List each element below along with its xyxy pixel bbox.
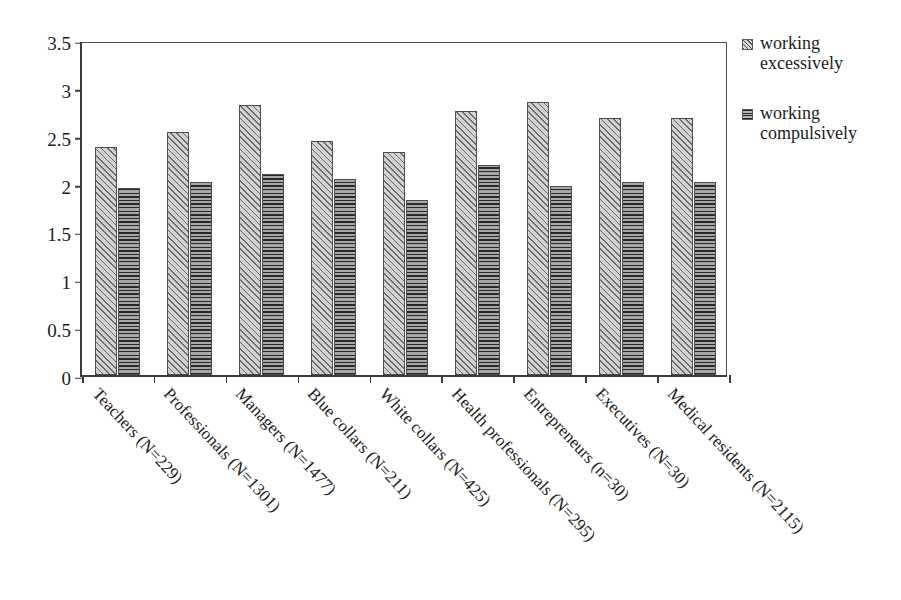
bar-excessive bbox=[599, 118, 621, 375]
legend-item-working-excessively: workingexcessively bbox=[742, 33, 892, 73]
x-axis-tick bbox=[729, 375, 731, 383]
x-axis-label: Health professionals (N=295) bbox=[448, 385, 599, 545]
y-axis-tick-label: 3.5 bbox=[47, 34, 82, 53]
x-axis-label: Medical residents (N=2115) bbox=[664, 385, 807, 537]
bar-compulsive bbox=[622, 182, 644, 375]
bar-group bbox=[82, 43, 154, 375]
plot-area: 00.511.522.533.5 bbox=[80, 42, 727, 377]
x-axis-tick bbox=[441, 375, 443, 383]
bar-compulsive bbox=[406, 200, 428, 375]
bar-excessive bbox=[95, 147, 117, 375]
bar-excessive bbox=[167, 132, 189, 375]
bar-excessive bbox=[527, 102, 549, 375]
legend-label-excessive: workingexcessively bbox=[760, 33, 843, 73]
bar-group bbox=[298, 43, 370, 375]
legend-swatch-icon-compulsive bbox=[742, 109, 753, 120]
bar-group bbox=[657, 43, 729, 375]
x-axis-tick bbox=[154, 375, 156, 383]
legend-label-compulsive-line2: compulsively bbox=[760, 123, 857, 143]
x-axis-tick bbox=[82, 375, 84, 383]
y-axis-tick-label: 2 bbox=[62, 177, 83, 196]
bar-chart: 00.511.522.533.5 Teachers (N=229)Profess… bbox=[0, 0, 901, 600]
x-axis-tick bbox=[298, 375, 300, 383]
x-axis-tick bbox=[370, 375, 372, 383]
y-axis-tick-label: 1 bbox=[62, 273, 83, 292]
bar-excessive bbox=[311, 141, 333, 375]
y-axis-tick-label: 0.5 bbox=[47, 321, 82, 340]
x-axis-tick bbox=[226, 375, 228, 383]
legend-label-excessive-line1: working bbox=[760, 33, 820, 53]
bar-excessive bbox=[671, 118, 693, 375]
y-axis-tick-label: 3 bbox=[62, 81, 83, 100]
bar-group bbox=[585, 43, 657, 375]
legend-swatch-icon-excessive bbox=[742, 39, 753, 50]
bar-compulsive bbox=[262, 174, 284, 375]
y-axis-tick-label: 0 bbox=[62, 369, 83, 388]
x-axis-tick bbox=[657, 375, 659, 383]
bar-compulsive bbox=[118, 188, 140, 375]
bar-excessive bbox=[383, 152, 405, 375]
x-axis-tick bbox=[513, 375, 515, 383]
bar-group bbox=[154, 43, 226, 375]
bar-excessive bbox=[455, 111, 477, 375]
bar-group bbox=[441, 43, 513, 375]
y-axis-tick-label: 2.5 bbox=[47, 129, 82, 148]
bar-compulsive bbox=[550, 186, 572, 375]
bar-excessive bbox=[239, 105, 261, 375]
y-axis-tick-label: 1.5 bbox=[47, 225, 82, 244]
bar-compulsive bbox=[478, 165, 500, 375]
bar-compulsive bbox=[334, 179, 356, 375]
legend-label-compulsive-line1: working bbox=[760, 103, 820, 123]
chart-legend: workingexcessively workingcompulsively bbox=[742, 33, 892, 174]
x-axis-tick bbox=[585, 375, 587, 383]
legend-label-excessive-line2: excessively bbox=[760, 53, 843, 73]
bar-group bbox=[513, 43, 585, 375]
legend-item-working-compulsively: workingcompulsively bbox=[742, 103, 892, 143]
bar-compulsive bbox=[694, 182, 716, 375]
bar-compulsive bbox=[190, 182, 212, 375]
bar-group bbox=[226, 43, 298, 375]
bar-group bbox=[370, 43, 442, 375]
legend-label-compulsive: workingcompulsively bbox=[760, 103, 857, 143]
